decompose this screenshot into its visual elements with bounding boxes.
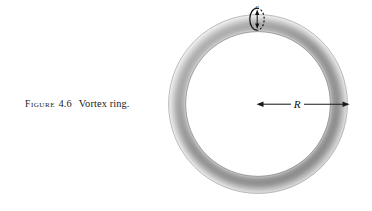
radius-dimension [254, 96, 350, 112]
tube-cross-section [246, 4, 270, 34]
figure-canvas: Figure4.6Vortex ring. [0, 0, 372, 211]
